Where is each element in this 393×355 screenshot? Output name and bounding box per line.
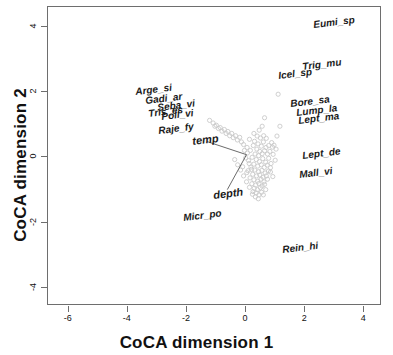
x-tick [127,306,128,312]
x-tick-label: -6 [64,313,72,323]
y-axis-title: CoCA dimension 2 [11,40,31,290]
y-tick [41,156,47,157]
y-tick-label: 4 [28,23,38,28]
x-tick [363,306,364,312]
x-tick-label: -2 [182,313,190,323]
y-tick [41,287,47,288]
x-tick-label: 0 [243,313,248,323]
y-tick [41,222,47,223]
y-tick [41,91,47,92]
x-tick-label: 4 [361,313,366,323]
x-tick-label: 2 [302,313,307,323]
coca-ordination-figure: -6-4-2024420-2-4 Eumi_spTrig_muIcel_spAr… [0,0,393,355]
x-tick [304,306,305,312]
x-tick [245,306,246,312]
y-tick [41,26,47,27]
x-tick-label: -4 [123,313,131,323]
x-tick [186,306,187,312]
x-tick [68,306,69,312]
x-axis-title: CoCA dimension 1 [0,333,393,353]
